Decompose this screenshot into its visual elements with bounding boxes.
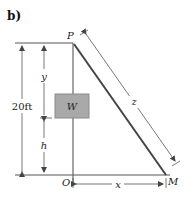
point-o-label: O	[62, 177, 70, 188]
total-height-label: 20ft	[12, 101, 32, 112]
panel-label: b)	[7, 9, 21, 23]
point-m-label: M	[167, 176, 179, 187]
pulley-diagram: b) W 20ft y h x z P O M	[0, 0, 195, 203]
x-label: x	[115, 179, 121, 190]
point-p-label: P	[66, 30, 74, 41]
weight-label: W	[67, 101, 78, 112]
h-label: h	[41, 140, 47, 151]
y-label: y	[40, 71, 47, 82]
z-label: z	[131, 97, 137, 107]
